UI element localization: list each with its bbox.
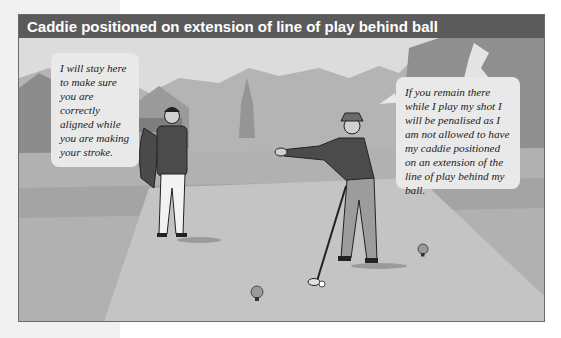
golf-scene: I will stay here to make sure you are co…: [19, 38, 544, 322]
caddie-speech-bubble: I will stay here to make sure you are co…: [51, 53, 139, 167]
player-speech-text: If you remain there while I play my shot…: [405, 86, 509, 196]
rules-illustration: Caddie positioned on extension of line o…: [18, 14, 545, 322]
player-speech-bubble: If you remain there while I play my shot…: [396, 77, 520, 189]
golf-ball: [319, 281, 325, 287]
caddie-speech-text: I will stay here to make sure you are co…: [60, 62, 129, 158]
figure-title: Caddie positioned on extension of line o…: [19, 15, 544, 38]
